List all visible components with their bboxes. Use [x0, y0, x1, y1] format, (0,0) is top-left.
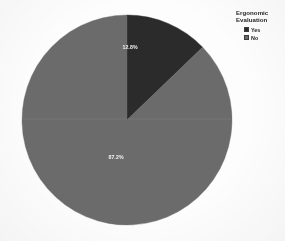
- pie-slice-label-yes: 12.8%: [122, 44, 137, 50]
- pie-slice-label-no: 87.2%: [108, 154, 123, 160]
- legend: Ergonomic Evaluation Yes No: [236, 9, 284, 42]
- legend-label-yes: Yes: [251, 27, 260, 33]
- legend-item-list: Yes No: [236, 26, 284, 41]
- legend-swatch-yes-icon: [244, 27, 249, 32]
- legend-swatch-no-icon: [244, 35, 249, 40]
- pie-chart-figure: 12.8%87.2% Ergonomic Evaluation Yes No: [0, 0, 285, 241]
- legend-item-no[interactable]: No: [244, 34, 284, 41]
- legend-title: Ergonomic Evaluation: [236, 9, 284, 23]
- legend-label-no: No: [251, 35, 258, 41]
- legend-item-yes[interactable]: Yes: [244, 26, 284, 33]
